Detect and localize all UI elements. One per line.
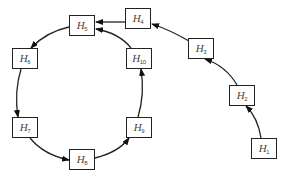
node-label: H5 bbox=[77, 19, 88, 32]
node-h5: H5 bbox=[69, 15, 95, 36]
edge-h8-h9 bbox=[95, 138, 129, 158]
edge-h6-h7 bbox=[17, 69, 21, 117]
node-label: H2 bbox=[237, 89, 248, 102]
node-h3: H3 bbox=[188, 38, 214, 59]
node-label: H3 bbox=[196, 42, 207, 55]
edge-h9-h10 bbox=[138, 69, 142, 117]
node-h4: H4 bbox=[125, 8, 151, 29]
node-label: H4 bbox=[133, 12, 144, 25]
node-h6: H6 bbox=[12, 48, 38, 69]
node-label: H10 bbox=[132, 52, 146, 65]
edge-h3-h4 bbox=[152, 24, 189, 41]
node-label: H7 bbox=[20, 121, 31, 134]
edge-h2-h3 bbox=[205, 59, 237, 85]
node-h10: H10 bbox=[126, 48, 152, 69]
edge-h5-h6 bbox=[31, 27, 69, 48]
node-label: H8 bbox=[77, 153, 88, 166]
node-label: H9 bbox=[134, 121, 145, 134]
edge-h1-h2 bbox=[246, 106, 261, 138]
node-h8: H8 bbox=[69, 149, 95, 170]
node-h1: H1 bbox=[251, 138, 277, 159]
node-h7: H7 bbox=[12, 117, 38, 138]
edge-h10-h5 bbox=[96, 29, 131, 48]
edge-h7-h8 bbox=[30, 138, 69, 160]
node-h9: H9 bbox=[126, 117, 152, 138]
node-label: H6 bbox=[20, 52, 31, 65]
node-h2: H2 bbox=[229, 85, 255, 106]
node-label: H1 bbox=[259, 142, 270, 155]
